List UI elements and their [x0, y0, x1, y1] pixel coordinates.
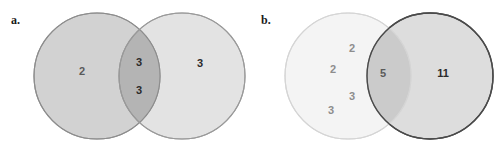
panel-b-left-only-value-3: 3	[349, 91, 355, 102]
venn-b-svg	[251, 0, 503, 150]
venn-diagram-a	[0, 0, 251, 150]
panel-a-intersection-value-top: 3	[136, 57, 142, 68]
panel-a-left-only-value: 2	[79, 66, 85, 77]
panel-a-right-only-value: 3	[197, 58, 203, 69]
venn-diagram-b	[251, 0, 503, 150]
panel-b-right-only-value: 11	[437, 68, 449, 79]
venn-diagram-figure: a. b.	[0, 0, 503, 150]
venn-a-svg	[0, 0, 251, 150]
panel-b-left-only-value-1: 2	[349, 43, 355, 54]
panel-b-intersection-value: 5	[380, 68, 386, 79]
panel-a-intersection-value-bottom: 3	[136, 85, 142, 96]
panel-b-left-only-value-2: 2	[330, 64, 336, 75]
panel-b-left-only-value-4: 3	[328, 105, 334, 116]
